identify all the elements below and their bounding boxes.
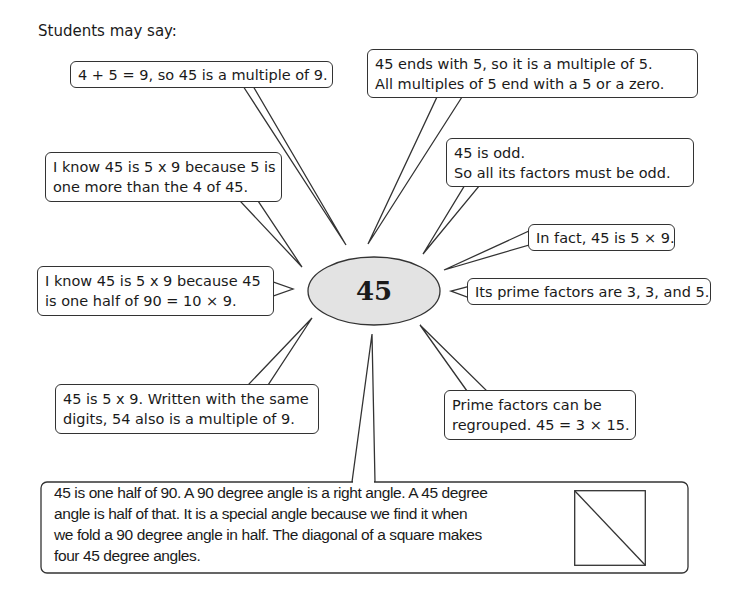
bubble-regrouped: Prime factors can be regrouped. 45 = 3 ×…	[444, 390, 636, 440]
center-number: 45	[307, 256, 441, 326]
bottom-explanation: 45 is one half of 90. A 90 degree angle …	[54, 482, 488, 566]
bubble-five-more: I know 45 is 5 x 9 because 5 is one more…	[45, 152, 282, 202]
bubble-digits-54: 45 is 5 x 9. Written with the same digit…	[55, 384, 319, 434]
bubble-is-odd: 45 is odd. So all its factors must be od…	[446, 138, 694, 187]
bubble-prime-factors: Its prime factors are 3, 3, and 5.	[467, 278, 711, 305]
square-diagonal-figure	[574, 490, 646, 566]
bubble-ends-with-5: 45 ends with 5, so it is a multiple of 5…	[367, 49, 698, 98]
bubble-in-fact: In fact, 45 is 5 × 9.	[528, 224, 675, 251]
bubble-sum-digits: 4 + 5 = 9, so 45 is a multiple of 9.	[70, 61, 333, 88]
bubble-half-of-90: I know 45 is 5 x 9 because 45 is one hal…	[37, 266, 274, 316]
